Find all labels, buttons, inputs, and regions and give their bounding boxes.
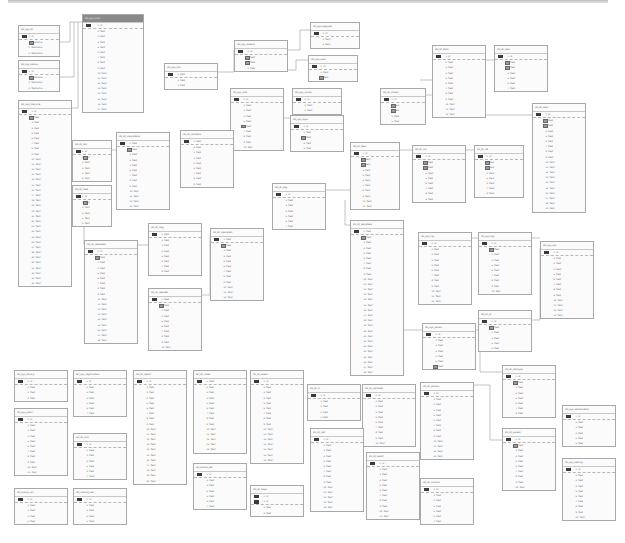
entity-table[interactable]: tbl_status_set1. id2. field3. field4. fi… xyxy=(193,463,247,510)
table-field[interactable]: 5. field xyxy=(308,415,360,420)
entity-table[interactable]: tbl_dt_flag1. field2. field3. field4. fi… xyxy=(148,223,202,276)
entity-table[interactable]: tbl_sys_logic1. id2. field3. field4. fie… xyxy=(290,115,344,152)
table-field[interactable]: 7. field xyxy=(421,519,473,524)
entity-table[interactable]: tbl_sys_cfg1. id2. field3. field4. field… xyxy=(418,232,472,305)
entity-table[interactable]: tbl_dt_request1. field2. field3. field4.… xyxy=(148,288,202,351)
entity-table[interactable]: tbl_dt_template1. field2. field3. field4… xyxy=(350,220,404,376)
table-field[interactable]: 3. field xyxy=(293,108,341,113)
entity-table[interactable]: tbl_sys_stream1. id2. field3. field4. fi… xyxy=(234,40,288,72)
entity-table[interactable]: tbl_dt_memodata1. field2. field3. field4… xyxy=(116,132,170,210)
table-field[interactable]: 3. field xyxy=(311,42,359,47)
table-field[interactable]: 10. field xyxy=(363,441,415,446)
entity-table[interactable]: tbl_dt_cl1. id2. field3. field4. field5.… xyxy=(307,384,361,421)
table-field[interactable]: 12. field xyxy=(433,112,485,117)
table-field[interactable]: 6. field xyxy=(479,346,531,351)
table-field[interactable]: 8. field xyxy=(149,269,201,274)
entity-table[interactable]: tbl_dt_rel1. id2. field3. field4. field5… xyxy=(474,145,524,198)
entity-table[interactable]: tbl_dt_report1. id2. field3. field4. fie… xyxy=(133,370,187,485)
entity-table[interactable]: tbl_sys_library1. id2. field3. field4. f… xyxy=(14,370,68,402)
table-field[interactable]: 10. field xyxy=(563,515,615,520)
table-field[interactable]: 7. field xyxy=(194,504,246,509)
entity-table[interactable]: tbl_status_usr1. id2. field3. field4. fi… xyxy=(14,488,68,525)
table-field[interactable]: 34. field xyxy=(19,281,71,286)
entity-table[interactable]: tbl_sys_param1. id2. field3. field4. fie… xyxy=(422,323,476,370)
table-field[interactable]: 14. field xyxy=(311,505,363,510)
entity-table[interactable]: tbl_dt_event1. id2. field3. field4. fiel… xyxy=(250,370,304,464)
entity-table[interactable]: tbl_dt_task21. id2. field3. field4. fiel… xyxy=(366,452,420,520)
entity-table[interactable]: tbl_sys_user1. id2. field3. field xyxy=(308,55,358,82)
table-field[interactable]: 8. field xyxy=(503,411,555,416)
table-field[interactable]: 9. field xyxy=(413,197,465,202)
table-field[interactable]: 16. field xyxy=(251,458,303,463)
table-field[interactable]: 13. field xyxy=(421,454,473,459)
table-field[interactable]: 10. field xyxy=(231,145,283,150)
entity-table[interactable]: tbl_dt_relatedat1. id2. field3. field4. … xyxy=(84,240,138,344)
entity-table[interactable]: tbl_dt_invoice1. id2. field3. field4. fi… xyxy=(420,478,474,525)
entity-table[interactable]: tbl_dt_node1. field2. field3. field4. fi… xyxy=(193,370,247,454)
entity-table[interactable]: tbl_routing_set1. id2. field3. field4. f… xyxy=(73,488,127,525)
table-field[interactable]: 10. field xyxy=(149,345,201,350)
table-field[interactable]: 4. fieldname xyxy=(19,86,59,91)
table-field[interactable]: 7. field xyxy=(74,474,126,479)
entity-table[interactable]: tbl_sys_main1. id2. field3. field4. fiel… xyxy=(82,14,144,113)
entity-table[interactable]: tbl_sys_relationdata1. id2. field3. fiel… xyxy=(562,405,616,447)
table-field[interactable]: 5. field xyxy=(15,519,67,524)
entity-table[interactable]: tbl_dt_pr1. id2. field3. field4. field5.… xyxy=(478,310,532,352)
entity-table[interactable]: tbl_dt_factdata1. field2. field3. field4… xyxy=(180,130,234,188)
table-field[interactable]: 3. field xyxy=(309,75,357,80)
table-field[interactable]: 4. field xyxy=(251,511,303,516)
entity-table[interactable]: tbl_sys_opt1. id2. field3. field4. field… xyxy=(540,241,594,319)
table-field[interactable]: 4. fieldname xyxy=(19,51,59,56)
table-field[interactable]: 10. field xyxy=(503,485,555,490)
entity-table[interactable]: tbl_sys_role1. id2. field3. field4. fiel… xyxy=(230,88,284,151)
entity-table[interactable]: tbl_sys_registration1. id2. field3. fiel… xyxy=(73,370,127,417)
entity-table[interactable]: tbl_dt_task1. id2. field3. field4. field… xyxy=(494,45,548,92)
table-field[interactable]: 5. field xyxy=(381,119,425,124)
table-field[interactable]: 11. field xyxy=(367,514,419,519)
table-field[interactable]: 12. field xyxy=(419,299,471,304)
entity-table[interactable]: tbl_dt_val1. id2. field3. field4. field5… xyxy=(412,145,466,203)
table-field[interactable]: 6. field xyxy=(73,221,111,226)
table-field[interactable]: 3. field xyxy=(165,83,217,88)
table-field[interactable]: 5. field xyxy=(74,519,126,524)
table-field[interactable]: 11. field xyxy=(15,470,67,475)
entity-table[interactable]: tbl_sys_log1. id2. field3. field4. field… xyxy=(478,232,532,295)
table-field[interactable]: 5. field xyxy=(291,146,343,151)
table-field[interactable]: 4. field xyxy=(235,66,287,71)
entity-table[interactable]: tbl_sys_cursor1. id2. field3. field xyxy=(292,88,342,115)
table-field[interactable]: 13. field xyxy=(117,204,169,209)
table-field[interactable]: 6. field xyxy=(563,441,615,446)
table-field[interactable]: 9. field xyxy=(181,182,233,187)
entity-table[interactable]: tbl_dt_key1. id2. field3. field4. field5… xyxy=(272,183,326,230)
table-field[interactable]: 17. field xyxy=(83,107,143,112)
entity-table[interactable]: tbl_dt_flags1. id2. id3. field4. field xyxy=(250,485,304,517)
entity-table[interactable]: tbl_sys_setting1. id2. field3. field4. f… xyxy=(562,458,616,521)
entity-table[interactable]: tbl_dt_field1. id2. field3. field4. fiel… xyxy=(72,185,112,227)
table-field[interactable]: 6. field xyxy=(73,176,111,181)
table-field[interactable]: 10. field xyxy=(479,289,531,294)
table-field[interactable]: 11. field xyxy=(351,204,399,209)
entity-table[interactable]: tbl_dt_alert1. id2. field3. field4. fiel… xyxy=(532,103,586,213)
entity-table[interactable]: tbl_dt_person1. id2. field3. field4. fie… xyxy=(420,382,474,460)
entity-table[interactable]: tbl_dt_cell1. id2. field3. field4. field… xyxy=(310,428,364,512)
table-field[interactable]: 7. field xyxy=(495,86,547,91)
table-field[interactable]: 19. field xyxy=(533,206,585,211)
table-field[interactable]: 8. field xyxy=(475,191,523,196)
table-field[interactable]: 4. field xyxy=(15,396,67,401)
table-field[interactable]: 7. field xyxy=(74,411,126,416)
entity-table[interactable]: tbl_dt_doctype1. id2. field3. field4. fi… xyxy=(502,365,556,418)
entity-table[interactable]: tbl_dt_memodat1. field2. field3. field4.… xyxy=(210,228,264,301)
entity-table[interactable]: tbl_sys_link1. field2. field3. field xyxy=(164,63,218,90)
entity-table[interactable]: tbl_dt_item1. id2. field3. field4. field… xyxy=(350,142,400,210)
table-field[interactable]: 14. field xyxy=(194,447,246,452)
table-field[interactable]: 12. field xyxy=(211,295,263,300)
entity-table[interactable]: tbl_sys_dt1. id2. fieldname3. fieldname4… xyxy=(18,25,60,57)
entity-table[interactable]: tbl_dt_certfield1. id2. field3. field4. … xyxy=(362,384,416,447)
entity-table[interactable]: tbl_dt_parent1. id2. field3. field4. fie… xyxy=(502,428,556,491)
entity-table[interactable]: tbl_dt_data1. id2. field3. field4. field… xyxy=(432,45,486,118)
entity-table[interactable]: tbl_dt_doc1. id2. field3. field4. field5… xyxy=(72,140,112,182)
entity-table[interactable]: tbl_sys_tagtype1. id2. field3. field xyxy=(310,22,360,49)
table-field[interactable]: 20. field xyxy=(134,479,186,484)
entity-table[interactable]: tbl_dt_sched1. id2. field3. field4. fiel… xyxy=(380,88,426,125)
table-field[interactable]: 28. field xyxy=(351,370,403,375)
